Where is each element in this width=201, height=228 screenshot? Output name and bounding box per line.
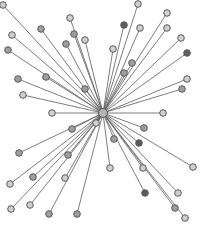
leaf-node: [7, 181, 14, 188]
leaf-node: [27, 202, 34, 209]
leaf-node: [121, 70, 128, 77]
leaf-node: [0, 2, 6, 9]
leaf-node: [62, 175, 69, 182]
leaf-node: [140, 165, 147, 172]
leaf-node: [179, 86, 186, 93]
leaf-node: [107, 165, 114, 172]
leaf-node: [49, 110, 56, 117]
leaf-node: [129, 60, 136, 67]
leaf-node: [164, 25, 171, 32]
leaf-node: [141, 125, 148, 132]
leaf-node: [69, 126, 76, 133]
leaf-node: [82, 86, 89, 93]
leaf-node: [178, 35, 185, 42]
leaf-node: [71, 31, 78, 38]
leaf-node: [30, 174, 37, 181]
leaf-node: [38, 26, 45, 33]
leaf-node: [82, 37, 89, 44]
leaf-node: [190, 164, 197, 171]
leaf-node: [172, 205, 179, 212]
leaf-node: [137, 25, 144, 32]
leaf-node: [175, 190, 182, 197]
leaf-node: [164, 10, 171, 17]
leaf-node: [9, 32, 16, 39]
leaf-node: [74, 211, 81, 218]
leaf-node: [8, 206, 15, 213]
leaf-node: [121, 22, 128, 29]
leaf-node: [136, 140, 143, 147]
leaf-node: [182, 215, 189, 222]
leaf-node: [16, 150, 23, 157]
leaf-node: [43, 74, 50, 81]
hub-node: [99, 109, 108, 118]
leaf-node: [184, 50, 191, 57]
leaf-node: [110, 46, 117, 53]
leaf-node: [5, 47, 12, 54]
leaf-node: [160, 110, 167, 117]
leaf-node: [46, 211, 53, 218]
leaf-node: [135, 1, 142, 8]
leaf-node: [93, 120, 100, 127]
leaf-node: [184, 76, 191, 83]
leaf-node: [63, 41, 70, 48]
leaf-node: [142, 190, 149, 197]
leaf-node: [67, 15, 74, 22]
star-network-diagram: [0, 0, 201, 228]
leaf-node: [65, 152, 72, 159]
leaf-node: [111, 136, 118, 143]
leaf-node: [20, 92, 27, 99]
leaf-node: [15, 76, 22, 83]
